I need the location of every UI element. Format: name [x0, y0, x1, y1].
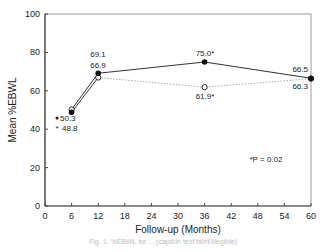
- data-point-label: 66.3: [292, 82, 308, 91]
- x-tick-label: 54: [279, 211, 289, 221]
- data-point-label: 69.1: [90, 50, 106, 59]
- filled-circle-marker: [202, 59, 208, 65]
- p-value-annotation: *P = 0.02: [250, 155, 284, 164]
- x-tick-label: 48: [253, 211, 263, 221]
- x-tick-label: 6: [69, 211, 74, 221]
- data-labels: 50.3*48.869.166.975.0*61.9*66.566.3: [55, 49, 308, 133]
- svg-text:*: *: [55, 124, 58, 133]
- data-point-label: 61.9*: [196, 92, 215, 101]
- x-axis-title: Follow-up (Months): [135, 224, 221, 235]
- data-point-label: 66.5: [292, 65, 308, 74]
- y-tick-label: 80: [30, 47, 40, 57]
- figure-caption: Fig. 1. %EBWL for ... (caption text fain…: [0, 238, 326, 245]
- y-tick-label: 60: [30, 86, 40, 96]
- x-tick-label: 24: [146, 211, 156, 221]
- data-point-label: 66.9: [90, 61, 106, 70]
- y-tick-label: 20: [30, 163, 40, 173]
- x-tick-label: 60: [306, 211, 316, 221]
- legend-filled-marker: [56, 117, 59, 120]
- x-tick-label: 36: [200, 211, 210, 221]
- x-tick-label: 0: [42, 211, 47, 221]
- chart-svg: 020406080100 06121824303642485460 50.3*4…: [0, 0, 326, 252]
- x-tick-label: 30: [173, 211, 183, 221]
- x-tick-label: 18: [120, 211, 130, 221]
- y-tick-label: 40: [30, 124, 40, 134]
- y-axis-title: Mean %EBWL: [7, 77, 18, 142]
- x-tick-label: 42: [226, 211, 236, 221]
- open-circle-marker: [202, 85, 207, 90]
- data-point-label: 48.8: [62, 124, 78, 133]
- data-point-label: 50.3: [60, 114, 76, 123]
- plot-frame: [45, 14, 311, 206]
- data-point-label: 75.0*: [196, 49, 215, 58]
- filled-circle-marker: [95, 71, 101, 77]
- filled-circle-marker: [308, 76, 314, 82]
- y-tick-label: 0: [35, 201, 40, 211]
- x-tick-label: 12: [93, 211, 103, 221]
- y-tick-label: 100: [25, 9, 40, 19]
